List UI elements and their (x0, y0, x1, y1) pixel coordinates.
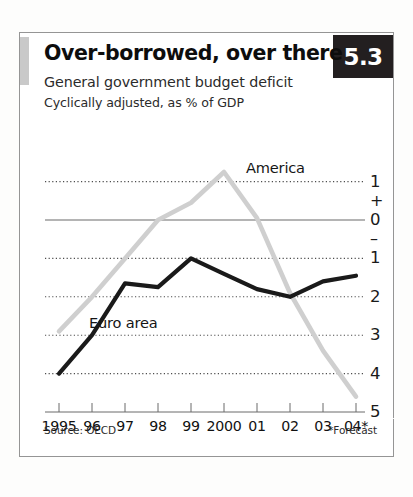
y-tick-label: 3 (370, 325, 392, 344)
y-tick-label: 1 (370, 172, 392, 191)
plot-area: 1012345+– 199596979899200001020304* Amer… (20, 33, 395, 458)
negative-sign: – (370, 229, 392, 248)
gridlines (45, 182, 365, 374)
source-note: Source: OECD (44, 424, 116, 436)
series-lines (59, 172, 356, 397)
series-label-euro-area: Euro area (89, 314, 157, 331)
footer-divider (20, 418, 395, 419)
y-tick-label: 4 (370, 364, 392, 383)
y-tick-label: 2 (370, 287, 392, 306)
forecast-note: *Forecast (328, 424, 377, 436)
x-axis (45, 403, 365, 412)
line-chart-svg (20, 33, 395, 458)
y-tick-label: 0 (370, 210, 392, 229)
y-tick-label: 1 (370, 248, 392, 267)
screenshot-root: 5.3 Over-borrowed, over there General go… (0, 0, 413, 497)
positive-sign: + (370, 191, 392, 210)
series-label-america: America (246, 159, 305, 176)
chart-card: 5.3 Over-borrowed, over there General go… (19, 32, 394, 457)
